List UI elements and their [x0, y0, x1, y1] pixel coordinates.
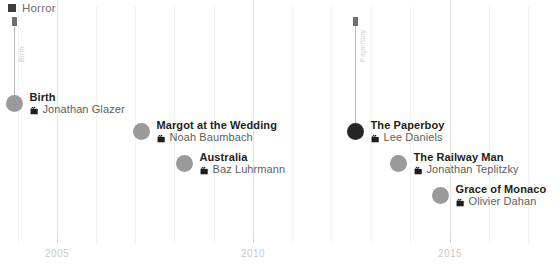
- film-entry-text: BirthJonathan Glazer: [30, 92, 125, 117]
- clapperboard-icon: [414, 166, 423, 175]
- timeline-chart: Horror BirthPaperboy BirthJonathan Glaze…: [0, 0, 559, 275]
- stem-line: [14, 26, 15, 100]
- stem-cap-icon: [353, 17, 358, 26]
- film-entry-text: Margot at the WeddingNoah Baumbach: [157, 120, 277, 145]
- gridline: [331, 6, 332, 243]
- stem-line: [355, 26, 356, 128]
- film-director: Noah Baumbach: [170, 132, 253, 144]
- stem-cap-icon: [12, 17, 17, 26]
- film-entry-text: Grace of MonacoOlivier Dahan: [456, 184, 547, 209]
- clapperboard-icon: [157, 134, 166, 143]
- film-title: Grace of Monaco: [456, 184, 547, 196]
- gridline: [18, 6, 19, 243]
- data-point-marker[interactable]: [432, 187, 449, 204]
- gridline: [292, 6, 293, 243]
- data-point-marker[interactable]: [6, 95, 23, 112]
- film-title: Australia: [200, 152, 286, 164]
- clapperboard-icon: [30, 106, 39, 115]
- data-point-marker[interactable]: [390, 155, 407, 172]
- clapperboard-icon: [200, 166, 209, 175]
- film-director-row: Jonathan Teplitzky: [414, 164, 519, 176]
- film-director-row: Noah Baumbach: [157, 132, 277, 144]
- film-director: Olivier Dahan: [469, 196, 537, 208]
- legend-item-label: Horror: [22, 2, 56, 14]
- axis-tick: [450, 234, 451, 243]
- film-entry-text: The Railway ManJonathan Teplitzky: [414, 152, 519, 177]
- film-director-row: Jonathan Glazer: [30, 104, 125, 116]
- axis-tick: [253, 234, 254, 243]
- data-point-marker[interactable]: [176, 155, 193, 172]
- data-point-marker[interactable]: [347, 123, 364, 140]
- film-entry[interactable]: The Railway ManJonathan Teplitzky: [390, 152, 519, 177]
- film-entry[interactable]: The PaperboyLee Daniels: [347, 120, 445, 145]
- film-director-row: Lee Daniels: [371, 132, 445, 144]
- legend-square-marker-icon: [8, 4, 16, 12]
- film-entry-text: AustraliaBaz Luhrmann: [200, 152, 286, 177]
- film-title: The Paperboy: [371, 120, 445, 132]
- film-director: Baz Luhrmann: [213, 164, 286, 176]
- film-entry-text: The PaperboyLee Daniels: [371, 120, 445, 145]
- axis-tick-label: 2015: [438, 248, 462, 259]
- data-point-marker[interactable]: [133, 123, 150, 140]
- film-title: The Railway Man: [414, 152, 519, 164]
- gridline: [96, 6, 97, 243]
- film-director: Jonathan Teplitzky: [427, 164, 519, 176]
- gridline: [57, 0, 58, 243]
- film-entry[interactable]: Grace of MonacoOlivier Dahan: [432, 184, 547, 209]
- film-title: Birth: [30, 92, 125, 104]
- film-entry[interactable]: Margot at the WeddingNoah Baumbach: [133, 120, 277, 145]
- film-director-row: Baz Luhrmann: [200, 164, 286, 176]
- clapperboard-icon: [456, 198, 465, 207]
- stem-label: Birth: [18, 46, 25, 62]
- chart-legend: Horror: [8, 2, 56, 14]
- film-director-row: Olivier Dahan: [456, 196, 547, 208]
- film-director: Lee Daniels: [384, 132, 443, 144]
- axis-tick-label: 2010: [241, 248, 265, 259]
- axis-tick-label: 2005: [45, 248, 69, 259]
- film-title: Margot at the Wedding: [157, 120, 277, 132]
- film-director: Jonathan Glazer: [43, 104, 125, 116]
- stem-label: Paperboy: [359, 30, 366, 62]
- film-entry[interactable]: AustraliaBaz Luhrmann: [176, 152, 286, 177]
- film-entry[interactable]: BirthJonathan Glazer: [6, 92, 125, 117]
- clapperboard-icon: [371, 134, 380, 143]
- axis-tick: [57, 234, 58, 243]
